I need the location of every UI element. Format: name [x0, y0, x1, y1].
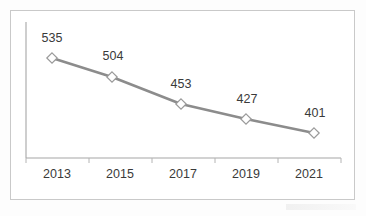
x-axis-tick-labels: 20132015201720192021 — [43, 167, 323, 181]
x-axis-tick-label-2019: 2019 — [232, 167, 260, 181]
data-point-marker-2019[interactable] — [241, 114, 251, 124]
chart-root: 535504453427401 20132015201720192021 — [0, 0, 366, 216]
line-chart-plot: 535504453427401 20132015201720192021 — [0, 0, 366, 216]
data-value-label-2019: 427 — [237, 92, 258, 106]
data-value-label-2021: 401 — [305, 106, 326, 120]
x-axis-tick-label-2013: 2013 — [43, 167, 71, 181]
data-point-marker-2015[interactable] — [107, 72, 117, 82]
x-axis-tick-label-2017: 2017 — [169, 167, 197, 181]
data-value-label-2015: 504 — [103, 49, 124, 63]
data-value-label-2013: 535 — [42, 31, 63, 45]
data-point-marker-2017[interactable] — [176, 99, 186, 109]
data-value-label-2017: 453 — [171, 77, 192, 91]
data-point-marker-2021[interactable] — [309, 128, 319, 138]
data-point-marker-2013[interactable] — [47, 53, 57, 63]
x-axis-tick-label-2015: 2015 — [106, 167, 134, 181]
data-series-line — [52, 58, 314, 133]
x-axis-ticks — [26, 158, 341, 163]
x-axis-tick-label-2021: 2021 — [295, 167, 323, 181]
